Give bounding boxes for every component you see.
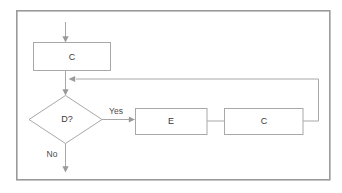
c-top-to-decision-arrow-head-icon — [62, 89, 68, 95]
decision-no-arrow-head-icon — [62, 166, 68, 172]
edge-label-yes: Yes — [109, 106, 123, 116]
decision-yes-arrow-head-icon — [129, 116, 135, 122]
node-proc-c-top[interactable]: C — [34, 43, 111, 71]
entry-arrow-connector — [62, 22, 68, 43]
node-proc-e[interactable]: E — [136, 109, 208, 135]
node-proc-c-right[interactable]: C — [225, 109, 304, 135]
proc-c-top-label: C — [69, 52, 76, 62]
node-decision-d[interactable]: D? — [29, 96, 102, 144]
flowchart-svg: C D? E C Yes No — [0, 0, 342, 193]
proc-c-right-label: C — [261, 116, 268, 126]
decision-no-connector — [62, 143, 68, 173]
proc-e-label: E — [168, 116, 174, 126]
decision-yes-connector — [102, 116, 135, 122]
diagram-canvas: C D? E C Yes No — [0, 0, 342, 193]
edge-label-no: No — [47, 149, 58, 159]
decision-d-label: D? — [61, 114, 73, 124]
entry-arrow-head-icon — [62, 36, 68, 42]
outer-frame — [17, 11, 330, 180]
feedback-loop-arrow-head-icon — [69, 76, 76, 82]
c-top-to-decision-connector — [62, 70, 68, 96]
